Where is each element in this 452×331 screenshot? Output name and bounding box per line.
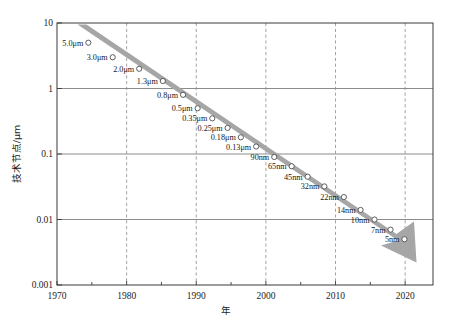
data-point-label: 5nm xyxy=(385,235,400,244)
data-point-label: 0.18μm xyxy=(211,133,237,142)
x-tick-label: 2000 xyxy=(256,291,275,301)
data-point-marker xyxy=(388,227,393,232)
x-tick-label: 2010 xyxy=(326,291,345,301)
y-tick-label: 0.1 xyxy=(41,149,53,159)
data-point-marker xyxy=(225,125,230,130)
data-point-label: 65nm xyxy=(268,162,287,171)
data-point-label: 1.3μm xyxy=(137,77,159,86)
x-tick-label: 1970 xyxy=(48,291,67,301)
y-tick-label: 1 xyxy=(48,84,53,94)
data-point-label: 0.13μm xyxy=(226,143,252,152)
data-point-marker xyxy=(137,66,142,71)
data-point-marker xyxy=(272,154,277,159)
data-point-label: 14nm xyxy=(337,206,356,215)
y-axis-title: 技术节点/μm xyxy=(11,125,22,184)
data-point-label: 2.0μm xyxy=(113,65,135,74)
data-point-label: 45nm xyxy=(284,173,303,182)
y-tick-label: 0.01 xyxy=(36,215,53,225)
data-point-label: 7nm xyxy=(371,226,386,235)
y-tick-label: 10 xyxy=(44,18,54,28)
data-point-marker xyxy=(110,55,115,60)
data-point-label: 5.0μm xyxy=(62,39,84,48)
data-point-marker xyxy=(358,207,363,212)
data-point-label: 3.0μm xyxy=(87,53,109,62)
data-point-marker xyxy=(238,135,243,140)
data-point-marker xyxy=(289,164,294,169)
data-point-label: 0.8μm xyxy=(157,91,179,100)
data-point-label: 32nm xyxy=(301,182,320,191)
chart-background xyxy=(0,0,452,331)
data-point-marker xyxy=(372,217,377,222)
y-tick-label: 0.001 xyxy=(32,280,54,290)
data-point-marker xyxy=(341,194,346,199)
data-point-marker xyxy=(160,78,165,83)
data-point-label: 90nm xyxy=(251,153,270,162)
data-point-label: 0.25μm xyxy=(197,124,223,133)
technology-node-scaling-chart: 5.0μm3.0μm2.0μm1.3μm0.8μm0.5μm0.35μm0.25… xyxy=(0,0,452,331)
data-point-marker xyxy=(322,184,327,189)
data-point-label: 0.35μm xyxy=(182,114,208,123)
data-point-marker xyxy=(180,92,185,97)
data-point-marker xyxy=(254,144,259,149)
data-point-label: 10nm xyxy=(351,216,370,225)
data-point-marker xyxy=(402,237,407,242)
x-axis-title: 年 xyxy=(221,305,231,316)
data-point-marker xyxy=(305,174,310,179)
data-point-marker xyxy=(210,116,215,121)
data-point-marker xyxy=(195,106,200,111)
x-tick-label: 2020 xyxy=(396,291,415,301)
data-point-label: 22nm xyxy=(320,193,339,202)
x-tick-label: 1980 xyxy=(117,291,136,301)
chart-figure: 5.0μm3.0μm2.0μm1.3μm0.8μm0.5μm0.35μm0.25… xyxy=(0,0,452,331)
x-tick-label: 1990 xyxy=(187,291,206,301)
data-point-label: 0.5μm xyxy=(172,104,194,113)
data-point-marker xyxy=(86,40,91,45)
